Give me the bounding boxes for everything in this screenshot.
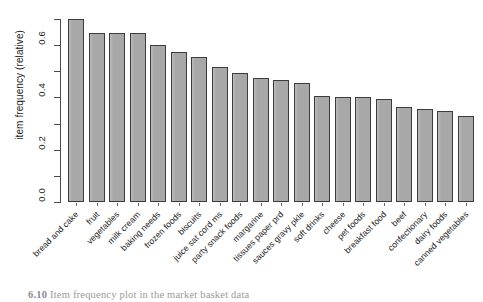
bar [273, 80, 289, 202]
y-axis-tick-label: 0.6 [36, 31, 47, 45]
bar [294, 83, 310, 202]
x-axis-tick [343, 203, 344, 206]
y-axis-minor-tick [54, 71, 60, 72]
bar [417, 109, 433, 202]
y-axis-tick [54, 45, 60, 46]
x-axis-tick [425, 203, 426, 206]
bar [150, 45, 166, 202]
bar [212, 67, 228, 202]
x-axis-tick [261, 203, 262, 206]
x-axis-tick [199, 203, 200, 206]
bar [314, 96, 330, 202]
y-axis-tick [54, 150, 60, 151]
item-frequency-bar-chart-figure: item frequency (relative) 0.00.20.40.6 b… [0, 0, 483, 302]
bar [191, 57, 207, 202]
bar [437, 111, 453, 203]
x-axis-tick [281, 203, 282, 206]
plot-area: item frequency (relative) 0.00.20.40.6 [0, 0, 483, 210]
x-axis-label: bread and cake [32, 210, 80, 258]
bar [89, 33, 105, 202]
y-axis-minor-tick [54, 176, 60, 177]
x-axis-tick [466, 203, 467, 206]
y-axis-tick-label: 0.2 [36, 136, 47, 150]
y-axis-line [60, 19, 61, 203]
x-axis-tick [179, 203, 180, 206]
bar [253, 78, 269, 202]
bar [355, 97, 371, 202]
bar [396, 107, 412, 202]
y-axis-tick [54, 97, 60, 98]
x-axis-tick [117, 203, 118, 206]
bar [109, 33, 125, 202]
y-axis-title: item frequency (relative) [14, 30, 25, 140]
bar [335, 97, 351, 202]
x-axis-tick [138, 203, 139, 206]
caption-number: 6.10 [28, 289, 47, 300]
bar [232, 73, 248, 202]
figure-caption: 6.10 Item frequency plot in the market b… [28, 289, 249, 300]
y-axis-tick-label: 0.4 [36, 83, 47, 97]
bar [130, 33, 146, 202]
bar [458, 116, 474, 202]
x-axis-tick [322, 203, 323, 206]
y-axis-minor-tick [54, 19, 60, 20]
x-axis-tick [76, 203, 77, 206]
x-axis-tick [97, 203, 98, 206]
x-axis-tick [240, 203, 241, 206]
x-axis-tick [384, 203, 385, 206]
x-axis-tick [220, 203, 221, 206]
caption-text: Item frequency plot in the market basket… [50, 289, 249, 300]
x-axis-tick [404, 203, 405, 206]
y-axis-tick-label: 0.0 [36, 188, 47, 202]
x-axis-tick [302, 203, 303, 206]
bar [376, 99, 392, 202]
x-axis-tick [445, 203, 446, 206]
bar [171, 52, 187, 202]
x-axis-tick [363, 203, 364, 206]
y-axis-tick [54, 202, 60, 203]
y-axis-minor-tick [54, 124, 60, 125]
bar [68, 19, 84, 202]
x-axis-tick [158, 203, 159, 206]
